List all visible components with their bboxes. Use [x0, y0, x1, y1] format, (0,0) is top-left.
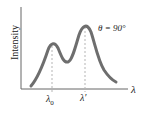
tick-lambda-prime: λ′ — [80, 92, 87, 103]
chart-canvas — [0, 0, 143, 113]
x-axis-label: λ — [131, 83, 136, 95]
tick-lambda0-sub: 0 — [50, 99, 54, 107]
y-axis-label: Intensity — [9, 23, 20, 63]
intensity-curve — [31, 26, 116, 86]
tick-lambda0: λ0 — [46, 93, 54, 107]
theta-annotation: θ = 90° — [98, 23, 126, 33]
